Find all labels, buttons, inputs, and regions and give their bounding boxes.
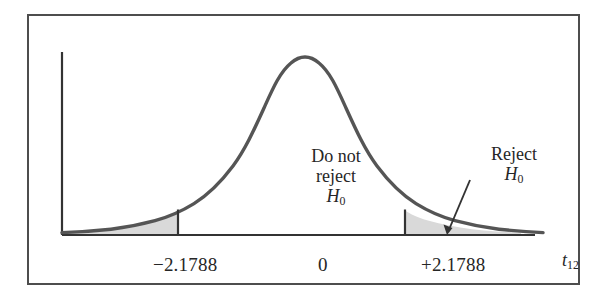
do-not-reject-region-label: Do not reject H0 (276, 146, 396, 209)
hypothesis-symbol-center: H (327, 186, 340, 206)
figure-page: Do not reject H0 Reject H0 −2.1788 0 +2.… (0, 0, 603, 301)
figure-frame: Do not reject H0 Reject H0 −2.1788 0 +2.… (27, 14, 580, 285)
tick-label-lower-critical: −2.1788 (153, 254, 217, 275)
hypothesis-subscript-center: 0 (340, 195, 346, 209)
do-not-reject-line-1: Do not (276, 146, 396, 166)
x-axis-label: t12 (562, 250, 579, 273)
do-not-reject-hypothesis: H0 (276, 186, 396, 209)
do-not-reject-line-2: reject (276, 166, 396, 186)
tick-label-upper-critical: +2.1788 (421, 254, 485, 275)
tick-label-zero: 0 (318, 254, 328, 275)
hypothesis-symbol-reject: H (505, 164, 518, 184)
reject-line-1: Reject (459, 144, 569, 164)
reject-hypothesis: H0 (459, 164, 569, 187)
hypothesis-subscript-reject: 0 (518, 172, 524, 186)
reject-region-label: Reject H0 (459, 144, 569, 187)
x-axis-variable-subscript: 12 (567, 258, 579, 272)
